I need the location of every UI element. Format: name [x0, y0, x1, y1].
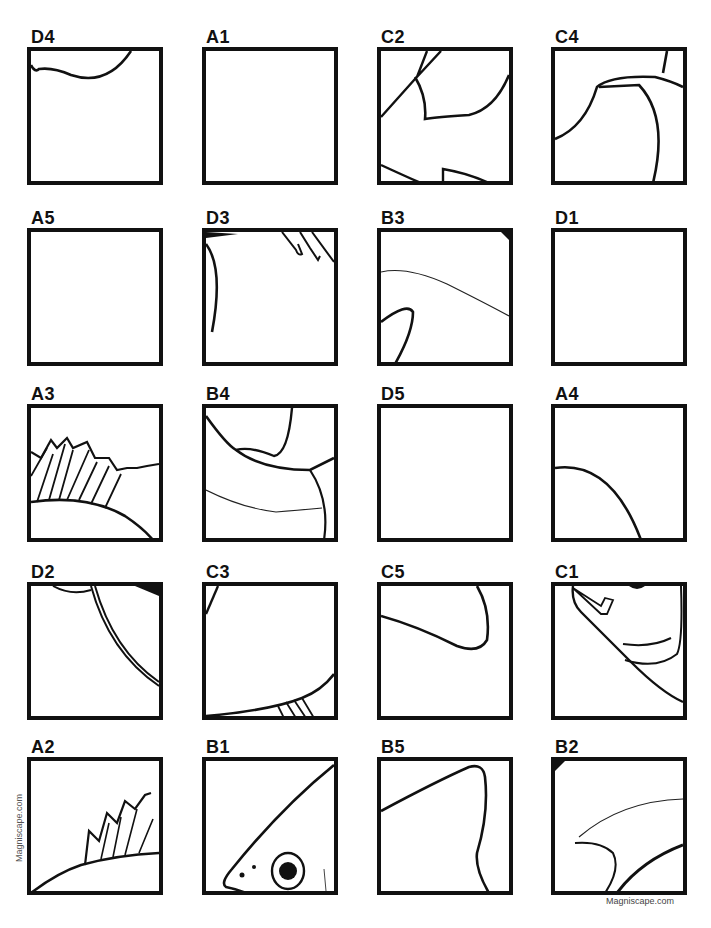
drawing-fish-eye	[202, 757, 338, 895]
drawing-square	[377, 582, 513, 720]
drawing-fin-edges	[377, 47, 513, 185]
grid-cell: D2	[27, 562, 163, 722]
grid-cell: B5	[377, 737, 513, 897]
cell-label: B5	[381, 737, 405, 757]
cropped-header-line	[25, 0, 685, 4]
drawing-fin-tips-corner	[202, 228, 338, 366]
cell-label: B4	[206, 384, 230, 404]
drawing-square	[377, 47, 513, 185]
drawing-square	[27, 757, 163, 895]
drawing-gill-curves	[202, 404, 338, 542]
grid-cell: A2	[27, 737, 163, 897]
drawing-diagonal-arc	[27, 582, 163, 720]
grid-cell: C3	[202, 562, 338, 722]
watermark-vertical: Magniscape.com	[14, 794, 24, 862]
cell-label: C1	[555, 562, 579, 582]
drawing-arc-body	[551, 47, 687, 185]
grid-cell: D5	[377, 384, 513, 544]
cell-label: D3	[206, 208, 230, 228]
cell-label: B3	[381, 208, 405, 228]
grid-cell: A1	[202, 27, 338, 187]
cell-label: C4	[555, 27, 579, 47]
grid-cell: D3	[202, 208, 338, 368]
drawing-square	[551, 228, 687, 366]
grid-cell: D4	[27, 27, 163, 187]
drawing-quarter-arc	[551, 404, 687, 542]
drawing-spines-small	[27, 757, 163, 895]
drawing-square	[27, 582, 163, 720]
cell-label: B1	[206, 737, 230, 757]
cell-label: D1	[555, 208, 579, 228]
cell-label: C3	[206, 562, 230, 582]
drawing-tail-lobe	[377, 757, 513, 895]
cell-label: A5	[31, 208, 55, 228]
drawing-square	[27, 228, 163, 366]
grid-cell: B2	[551, 737, 687, 897]
drawing-square	[551, 582, 687, 720]
drawing-square	[202, 404, 338, 542]
grid-cell: C2	[377, 27, 513, 187]
drawing-square	[202, 228, 338, 366]
grid-cell: B3	[377, 208, 513, 368]
grid-cell: C5	[377, 562, 513, 722]
drawing-square	[202, 47, 338, 185]
drawing-square	[377, 228, 513, 366]
cell-label: C2	[381, 27, 405, 47]
cell-label: B2	[555, 737, 579, 757]
grid-cell: A3	[27, 384, 163, 544]
cell-label: A3	[31, 384, 55, 404]
cell-label: D2	[31, 562, 55, 582]
grid-cell: A5	[27, 208, 163, 368]
grid-cell: D1	[551, 208, 687, 368]
cell-label: D4	[31, 27, 55, 47]
drawing-square	[551, 47, 687, 185]
grid-cell: B4	[202, 384, 338, 544]
drawing-mouth-curves	[551, 582, 687, 720]
cell-label: C5	[381, 562, 405, 582]
grid-cell: C4	[551, 27, 687, 187]
drawing-square	[202, 757, 338, 895]
cell-label: A1	[206, 27, 230, 47]
cell-label: A4	[555, 384, 579, 404]
drawing-square	[377, 404, 513, 542]
drawing-dorsal-spines	[27, 404, 163, 542]
drawing-fin-swoosh	[551, 757, 687, 895]
drawing-square	[27, 47, 163, 185]
cell-label: A2	[31, 737, 55, 757]
footer-credit: Magniscape.com	[606, 896, 674, 906]
drawing-square	[27, 404, 163, 542]
drawing-bottom-fin	[202, 582, 338, 720]
drawing-square	[551, 404, 687, 542]
drawing-fin-hook	[377, 582, 513, 720]
grid-cell: B1	[202, 737, 338, 897]
drawing-square	[551, 757, 687, 895]
grid-cell: A4	[551, 384, 687, 544]
drawing-square	[377, 757, 513, 895]
drawing-thin-line-loop	[377, 228, 513, 366]
grid-cell: C1	[551, 562, 687, 722]
drawing-curve-top	[27, 47, 163, 185]
cell-label: D5	[381, 384, 405, 404]
drawing-square	[202, 582, 338, 720]
